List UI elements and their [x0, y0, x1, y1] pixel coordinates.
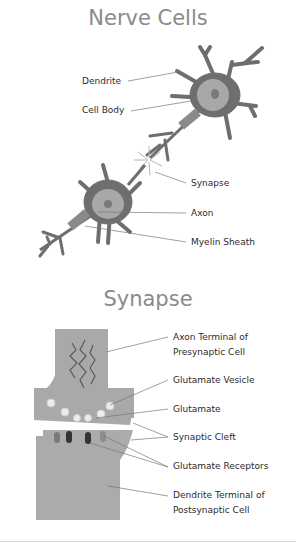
glutamate-receptors-label: Glutamate Receptors: [173, 459, 268, 474]
cell-body-label: Cell Body: [82, 103, 124, 118]
glutamate-label: Glutamate: [173, 402, 221, 417]
synapse-title: Synapse: [0, 287, 296, 311]
myelin-sheath-label: Myelin Sheath: [191, 235, 255, 250]
dendrite-terminal-label-line2: Postsynaptic Cell: [173, 503, 249, 518]
synapse-label: Synapse: [191, 176, 229, 191]
dendrite-label: Dendrite: [82, 74, 121, 89]
bottom-divider: [0, 541, 296, 542]
lower-neuron-icon: [40, 165, 145, 256]
dendrite-terminal-label-line1: Dendrite Terminal of: [173, 488, 265, 503]
axon-terminal-label-line2: Presynaptic Cell: [173, 345, 245, 360]
synaptic-cleft-label: Synaptic Cleft: [173, 430, 236, 445]
upper-neuron-icon: [147, 47, 262, 160]
glutamate-vesicle-label: Glutamate Vesicle: [173, 373, 255, 388]
synapse-diagram-icon: [34, 329, 134, 520]
axon-terminal-label-line1: Axon Terminal of: [173, 330, 248, 345]
axon-label: Axon: [191, 206, 213, 221]
